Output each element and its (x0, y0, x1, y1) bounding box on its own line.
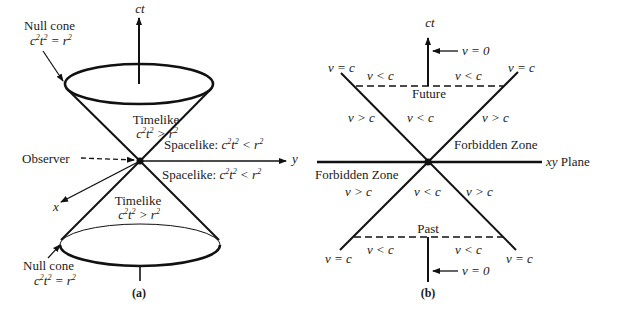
timelike-bottom-equation: c2t2 > r2 (118, 208, 160, 222)
caption-b: (b) (421, 286, 436, 300)
v-less-c-upper-center: v < c (407, 111, 434, 125)
null-cone-top-equation: c2t2 = r2 (30, 34, 72, 48)
v-less-c-bottom-right: v < c (455, 243, 482, 257)
null-cone-bottom-equation: c2t2 = r2 (34, 274, 76, 288)
ct-axis-label-a: ct (135, 2, 144, 16)
past-null-cone-rim-back (60, 224, 220, 245)
v-less-c-bottom-left: v < c (367, 243, 394, 257)
null-cone-top-label: Null cone (24, 19, 75, 33)
v-zero-top-label: v = 0 (462, 44, 490, 58)
v-equals-c-bottom-left: v = c (325, 252, 352, 266)
caption-a: (a) (132, 286, 146, 300)
past-null-cone-rim-front (60, 245, 220, 266)
v-greater-c-upper-right: v > c (482, 111, 509, 125)
v-less-c-lower-center: v < c (414, 185, 441, 199)
v-greater-c-upper-left: v > c (348, 111, 375, 125)
spacelike-bottom: Spacelike: c2t2 < r2 (162, 168, 261, 182)
spacelike-top: Spacelike: c2t2 < r2 (164, 138, 263, 152)
xy-plane-label: xy Plane (546, 155, 590, 169)
v-equals-c-top-left: v = c (328, 61, 355, 75)
v-zero-bottom-label: v = 0 (462, 264, 490, 278)
past-label: Past (417, 222, 439, 236)
future-label: Future (412, 87, 446, 101)
v-less-c-top-right: v < c (455, 69, 482, 83)
spacetime-diagram-canvas (0, 0, 620, 314)
null-cone-bottom-label: Null cone (23, 259, 74, 273)
observer-pointer (81, 158, 134, 160)
observer-label: Observer (22, 152, 70, 166)
observer-event-dot (137, 158, 144, 165)
timelike-bottom-label: Timelike (115, 194, 161, 208)
v-equals-c-top-right: v = c (508, 61, 535, 75)
x-axis-label: x (53, 200, 59, 214)
v-equals-c-bottom-right: v = c (506, 252, 533, 266)
forbidden-zone-left: Forbidden Zone (315, 168, 398, 182)
v-greater-c-lower-left: v > c (345, 185, 372, 199)
v-less-c-top-left: v < c (367, 69, 394, 83)
origin-event-dot (425, 159, 432, 166)
forbidden-zone-right: Forbidden Zone (454, 138, 537, 152)
v-greater-c-lower-right: v > c (466, 185, 493, 199)
ct-axis-label-b: ct (425, 16, 434, 30)
timelike-top-label: Timelike (133, 113, 179, 127)
y-axis-label: y (292, 152, 298, 166)
